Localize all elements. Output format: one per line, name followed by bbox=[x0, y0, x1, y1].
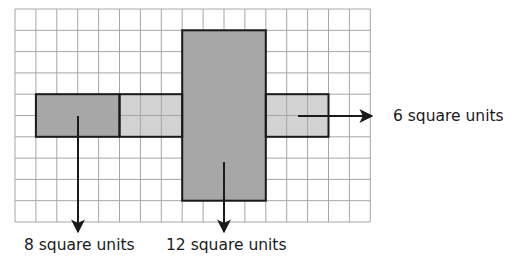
label-6-square-units: 6 square units bbox=[393, 109, 504, 125]
label-12-square-units: 12 square units bbox=[166, 238, 287, 254]
label-8-square-units: 8 square units bbox=[24, 238, 135, 254]
area-diagram bbox=[0, 0, 521, 271]
